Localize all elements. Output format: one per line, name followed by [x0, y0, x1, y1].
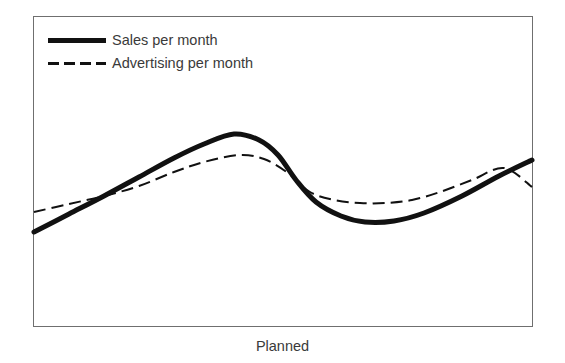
solid-line-swatch-icon: [48, 33, 106, 47]
chart-figure: Sales per month Advertising per month Pl…: [0, 0, 565, 363]
x-axis-label: Planned: [0, 338, 565, 354]
legend-label-advertising: Advertising per month: [112, 54, 253, 72]
legend-label-sales: Sales per month: [112, 31, 218, 49]
chart-legend: Sales per month Advertising per month: [48, 28, 348, 74]
dashed-line-swatch-icon: [48, 56, 106, 70]
legend-item-sales: Sales per month: [48, 28, 348, 51]
legend-item-advertising: Advertising per month: [48, 51, 348, 74]
